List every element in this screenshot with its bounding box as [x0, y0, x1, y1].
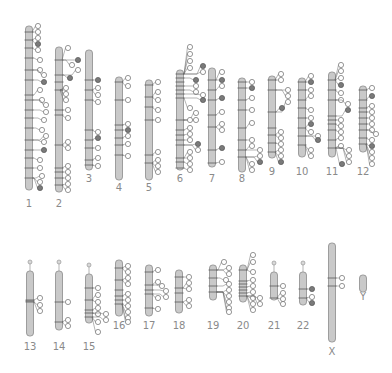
open-marker-icon [187, 131, 192, 136]
satellite-icon [28, 260, 32, 264]
open-marker-icon [35, 23, 40, 28]
open-marker-icon [308, 153, 313, 158]
chromosome-16: 16 [113, 260, 131, 331]
marker-leader [246, 98, 250, 100]
open-marker-icon [35, 47, 40, 52]
open-marker-icon [226, 265, 231, 270]
open-marker-icon [187, 51, 192, 56]
open-marker-icon [95, 292, 100, 297]
open-marker-icon [308, 147, 313, 152]
marker-leader [217, 292, 227, 296]
chromosome-label: 1 [26, 198, 32, 209]
chromosome-body [269, 76, 276, 158]
open-marker-icon [155, 295, 160, 300]
marker-leader [246, 123, 250, 128]
open-marker-icon [186, 286, 191, 291]
open-marker-icon [250, 301, 255, 306]
open-marker-icon [125, 309, 130, 314]
open-marker-icon [369, 85, 374, 90]
chromosome-body [56, 271, 63, 330]
marker-leader [184, 128, 188, 130]
marker-leader [33, 90, 38, 95]
chromosome-label: 15 [83, 341, 96, 352]
chromosome-label: 12 [357, 166, 370, 177]
open-marker-icon [163, 294, 168, 299]
marker-leader [216, 127, 220, 130]
open-marker-icon [155, 79, 160, 84]
open-marker-icon [35, 35, 40, 40]
marker-leader [33, 118, 42, 120]
marker-leader [217, 262, 222, 270]
marker-leader [366, 144, 370, 164]
open-marker-icon [219, 109, 224, 114]
open-marker-icon [308, 129, 313, 134]
marker-leader [183, 283, 187, 288]
open-marker-icon [65, 45, 70, 50]
open-marker-icon [250, 283, 255, 288]
open-marker-icon [155, 306, 160, 311]
chromosome-label: 2 [56, 198, 62, 209]
chromosome-15: 15 [83, 263, 109, 352]
filled-marker-icon [41, 147, 46, 152]
open-marker-icon [155, 163, 160, 168]
open-marker-icon [280, 283, 285, 288]
open-marker-icon [187, 155, 192, 160]
chromosome-14: 14 [53, 260, 71, 352]
filled-marker-icon [338, 82, 343, 87]
open-marker-icon [95, 85, 100, 90]
filled-marker-icon [257, 159, 262, 164]
chromosome-label: 20 [237, 320, 250, 331]
marker-leader [184, 98, 188, 108]
open-marker-icon [346, 159, 351, 164]
open-marker-icon [285, 99, 290, 104]
chromosome-label: 11 [326, 166, 339, 177]
open-marker-icon [346, 153, 351, 158]
open-marker-icon [41, 117, 46, 122]
filled-marker-icon [369, 93, 374, 98]
satellite-icon [57, 260, 61, 264]
open-marker-icon [125, 319, 130, 324]
open-marker-icon [221, 259, 226, 264]
open-marker-icon [65, 139, 70, 144]
filled-marker-icon [309, 286, 314, 291]
open-marker-icon [338, 75, 343, 80]
marker-leader [217, 290, 227, 292]
open-marker-icon [37, 302, 42, 307]
open-marker-icon [187, 149, 192, 154]
open-marker-icon [65, 323, 70, 328]
open-marker-icon [308, 93, 313, 98]
open-marker-icon [219, 127, 224, 132]
open-marker-icon [187, 137, 192, 142]
marker-leader [275, 152, 279, 162]
open-marker-icon [249, 143, 254, 148]
open-marker-icon [65, 107, 70, 112]
open-marker-icon [186, 274, 191, 279]
marker-leader [33, 140, 42, 142]
marker-leader [184, 98, 201, 100]
open-marker-icon [280, 296, 285, 301]
open-marker-icon [338, 62, 343, 67]
open-marker-icon [309, 294, 314, 299]
open-marker-icon [369, 155, 374, 160]
open-marker-icon [257, 301, 262, 306]
open-marker-icon [278, 71, 283, 76]
chromosome-label: 13 [24, 341, 37, 352]
marker-leader [63, 70, 76, 75]
open-marker-icon [65, 163, 70, 168]
open-marker-icon [37, 308, 42, 313]
open-marker-icon [187, 65, 192, 70]
open-marker-icon [103, 311, 108, 316]
open-marker-icon [125, 281, 130, 286]
open-marker-icon [155, 149, 160, 154]
open-marker-icon [200, 92, 205, 97]
filled-marker-icon [67, 75, 72, 80]
open-marker-icon [155, 117, 160, 122]
open-marker-icon [339, 283, 344, 288]
marker-leader [336, 110, 346, 116]
filled-marker-icon [278, 159, 283, 164]
chromosome-12: 12 [357, 85, 379, 177]
open-marker-icon [249, 167, 254, 172]
chromosome-Y: Y [359, 275, 367, 302]
open-marker-icon [338, 117, 343, 122]
open-marker-icon [95, 163, 100, 168]
